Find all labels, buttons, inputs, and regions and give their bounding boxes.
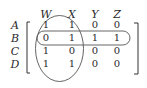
cell-a-w: 1 xyxy=(43,20,49,30)
cell-b-y: 1 xyxy=(92,33,98,43)
cell-d-w: 1 xyxy=(43,59,49,69)
column-label-x: X xyxy=(68,9,76,20)
cell-d-x: 1 xyxy=(69,59,75,69)
row-label-d: D xyxy=(11,59,20,70)
matrix-diagram: W X Y Z A B C D 1 1 0 0 0 1 1 1 1 0 0 0 … xyxy=(0,0,147,88)
row-label-b: B xyxy=(11,33,19,44)
cell-c-x: 0 xyxy=(69,46,75,56)
cell-a-x: 1 xyxy=(69,20,75,30)
left-bracket xyxy=(27,22,30,73)
column-label-w: W xyxy=(40,9,51,20)
row-label-a: A xyxy=(11,20,19,31)
row-label-c: C xyxy=(11,46,19,57)
cell-d-z: 0 xyxy=(114,59,120,69)
cell-c-w: 1 xyxy=(43,46,49,56)
cell-c-y: 0 xyxy=(92,46,98,56)
cell-a-y: 0 xyxy=(92,20,98,30)
cell-b-x: 1 xyxy=(69,33,75,43)
column-label-z: Z xyxy=(113,9,121,20)
cell-b-z: 1 xyxy=(114,33,120,43)
cell-c-z: 0 xyxy=(114,46,120,56)
cell-b-w: 0 xyxy=(43,33,49,43)
cell-a-z: 0 xyxy=(114,20,120,30)
right-bracket xyxy=(134,23,138,74)
column-label-y: Y xyxy=(91,9,98,20)
cell-d-y: 0 xyxy=(92,59,98,69)
